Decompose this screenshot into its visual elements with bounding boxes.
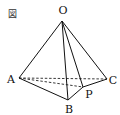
edge-BP <box>68 87 83 100</box>
edge-PC <box>83 79 107 87</box>
edge-OA <box>19 21 62 78</box>
tetrahedron-diagram: 図 O A B C P <box>0 0 120 115</box>
vertex-label-O: O <box>58 4 67 17</box>
edge-OC <box>62 21 107 79</box>
figure-caption-label: 図 <box>8 9 17 19</box>
point-label-P: P <box>85 88 93 101</box>
edge-AC-dashed <box>19 78 107 79</box>
vertex-label-A: A <box>6 73 16 86</box>
edge-OB <box>62 21 68 100</box>
edge-AB <box>19 78 68 100</box>
edge-OP <box>62 21 83 87</box>
vertex-label-C: C <box>109 74 117 87</box>
figure-caption: 図 <box>8 9 17 19</box>
vertex-label-B: B <box>65 103 73 115</box>
